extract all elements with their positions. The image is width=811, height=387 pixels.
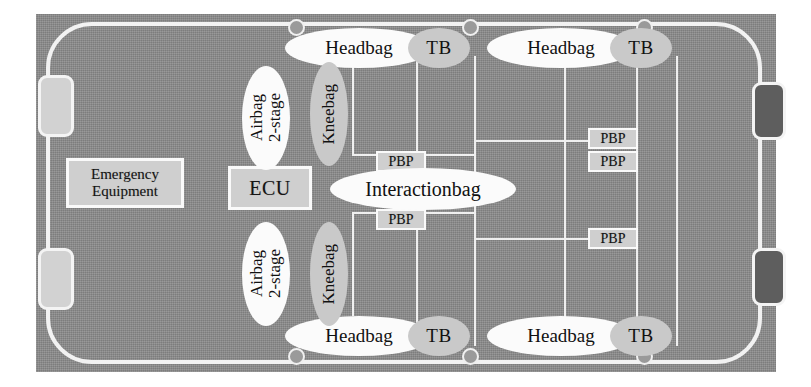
airbag-label-line1: Airbag xyxy=(247,250,266,297)
pbp-label: PBP xyxy=(601,154,626,170)
grid-line-vertical-4 xyxy=(636,56,638,346)
kneebag-ellipse-front-right: Kneebag xyxy=(310,222,348,326)
grid-line-vertical-3 xyxy=(564,56,566,346)
left-rear-side-block xyxy=(38,248,74,310)
pbp-box-rear-b: PBP xyxy=(588,151,638,172)
tb-ellipse-rear-right: TB xyxy=(610,316,672,356)
right-top-rear-block xyxy=(752,82,786,140)
emergency-equipment-label-line1: Emergency xyxy=(91,166,159,182)
airbag-2stage-ellipse-front-right: Airbag2-stage xyxy=(242,222,290,326)
tb-ellipse-front-left: TB xyxy=(408,28,470,68)
airbag-label-line1: Airbag xyxy=(247,94,266,141)
connector-front-left-vertical xyxy=(352,56,354,154)
tb-label: TB xyxy=(628,38,653,58)
sensor-node-front-right-bottom xyxy=(288,348,305,365)
pbp-box-rear-a: PBP xyxy=(588,128,638,149)
pbp-label: PBP xyxy=(389,212,414,228)
tb-label: TB xyxy=(426,38,451,58)
tb-label: TB xyxy=(426,326,451,346)
headbag-label: Headbag xyxy=(527,326,595,346)
pbp-label: PBP xyxy=(389,154,414,170)
airbag-2stage-ellipse-front-left: Airbag2-stage xyxy=(242,66,290,170)
tb-ellipse-front-right: TB xyxy=(408,316,470,356)
emergency-equipment-label-line2: Equipment xyxy=(92,183,158,199)
interactionbag-ellipse: Interactionbag xyxy=(330,168,516,210)
pbp-label: PBP xyxy=(601,131,626,147)
kneebag-ellipse-front-left: Kneebag xyxy=(310,62,348,166)
tb-label: TB xyxy=(628,326,653,346)
connector-pbp-top-right xyxy=(424,154,476,156)
connector-front-right-vertical xyxy=(352,212,354,316)
airbag-label: Airbag2-stage xyxy=(248,93,284,142)
airbag-label-line2: 2-stage xyxy=(265,249,284,298)
connector-pbp-bottom-horizontal xyxy=(352,212,378,214)
headbag-label: Headbag xyxy=(325,326,393,346)
interactionbag-label: Interactionbag xyxy=(365,179,481,200)
diagram-canvas: Emergency Equipment ECU PBP PBP PBP PBP … xyxy=(0,0,811,387)
airbag-label-line2: 2-stage xyxy=(265,93,284,142)
emergency-equipment-box: Emergency Equipment xyxy=(66,158,184,208)
emergency-equipment-label: Emergency Equipment xyxy=(91,166,159,200)
sensor-node-rear-right-bottom xyxy=(462,348,479,365)
sensor-node-front-left-top xyxy=(288,19,305,36)
kneebag-label: Kneebag xyxy=(320,244,338,304)
tb-ellipse-rear-left: TB xyxy=(610,28,672,68)
grid-line-vertical-5 xyxy=(676,56,678,346)
ecu-label: ECU xyxy=(249,177,291,199)
pbp-label: PBP xyxy=(601,231,626,247)
headbag-label: Headbag xyxy=(527,38,595,58)
pbp-box-front-bottom: PBP xyxy=(376,209,426,230)
left-front-side-block xyxy=(38,75,74,137)
connector-pbp-top-horizontal xyxy=(352,154,378,156)
kneebag-label: Kneebag xyxy=(320,84,338,144)
pbp-box-rear-c: PBP xyxy=(588,228,638,249)
ecu-box: ECU xyxy=(228,166,312,210)
sensor-node-rear-left-top xyxy=(462,19,479,36)
right-bottom-rear-block xyxy=(752,248,786,306)
headbag-label: Headbag xyxy=(325,38,393,58)
connector-pbp-bottom-right xyxy=(424,212,476,214)
airbag-label: Airbag2-stage xyxy=(248,249,284,298)
